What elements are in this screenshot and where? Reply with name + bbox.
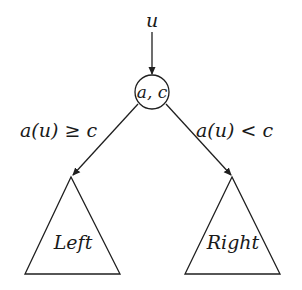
node-label: a, c (137, 82, 168, 102)
left-subtree-triangle (25, 177, 120, 274)
right-subtree-triangle (185, 177, 280, 274)
left-subtree-label: Left (53, 231, 93, 253)
right-subtree-label: Right (206, 231, 260, 253)
left-edge-condition: a(u) ≥ c (20, 119, 97, 141)
decision-tree-diagram: u a, c a(u) ≥ c a(u) < c Left Right (0, 0, 302, 290)
input-label: u (146, 9, 158, 31)
right-edge-condition: a(u) < c (196, 119, 273, 141)
